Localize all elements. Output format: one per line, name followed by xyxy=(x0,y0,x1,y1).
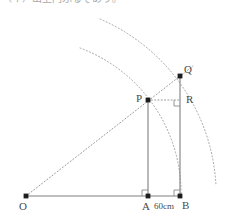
point-label-Q: Q xyxy=(184,64,192,75)
point-marker-Q xyxy=(178,74,183,79)
point-marker-B xyxy=(178,194,183,199)
point-marker-P xyxy=(146,98,151,103)
point-label-B: B xyxy=(182,200,189,211)
inner-arc-through-P-and-B xyxy=(80,48,181,196)
right-angle-mark-at-R xyxy=(174,100,180,106)
point-marker-A xyxy=(146,194,151,199)
ray-OPQ xyxy=(26,66,193,196)
geometry-figure xyxy=(0,0,233,224)
dimension-label-AB: 60cm xyxy=(154,202,174,211)
point-marker-O xyxy=(24,194,29,199)
diagram-page: （イ）出上円ふるそあり。 O A B P Q R 60cm xyxy=(0,0,233,224)
point-label-R: R xyxy=(186,94,193,105)
point-label-O: O xyxy=(19,201,27,212)
outer-arc-through-Q xyxy=(100,19,216,186)
point-label-A: A xyxy=(142,201,150,212)
point-label-P: P xyxy=(136,93,142,104)
